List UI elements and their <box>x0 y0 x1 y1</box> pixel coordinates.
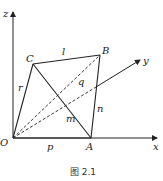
point-B-label: B <box>101 45 109 56</box>
point-O-label: O <box>0 137 8 148</box>
edge-p-label: p <box>47 141 54 152</box>
point-C-label: C <box>26 53 34 64</box>
edge-OB-dashed <box>13 55 100 138</box>
vector-diagram: z x y O A B C l r q n m p 图 2.1 <box>0 0 163 181</box>
edge-CO <box>13 64 33 138</box>
y-axis-dashed <box>13 87 96 138</box>
edge-m-label: m <box>66 113 75 124</box>
edge-n-label: n <box>97 103 103 114</box>
y-axis-label: y <box>142 55 149 66</box>
point-A-label: A <box>85 141 93 152</box>
y-axis <box>96 60 140 87</box>
edge-AB <box>91 55 100 138</box>
edge-r-label: r <box>18 82 24 93</box>
z-axis-label: z <box>2 8 9 19</box>
figure-caption: 图 2.1 <box>70 167 96 177</box>
edge-l-label: l <box>62 46 65 57</box>
x-axis-label: x <box>153 141 159 152</box>
edge-BC <box>33 55 100 64</box>
edge-q-label: q <box>78 76 84 87</box>
